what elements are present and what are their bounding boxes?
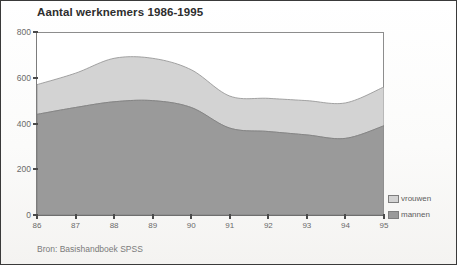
y-axis-label: 600 bbox=[1, 73, 31, 83]
x-axis-label: 86 bbox=[28, 221, 46, 230]
x-axis-tick bbox=[306, 214, 308, 219]
x-axis-tick bbox=[75, 214, 77, 219]
y-axis-label-text: 800 bbox=[3, 27, 31, 37]
x-axis-label: 93 bbox=[298, 221, 316, 230]
y-axis-label-text: 200 bbox=[3, 164, 31, 174]
y-axis-tick bbox=[33, 77, 38, 79]
x-axis-tick bbox=[344, 214, 346, 219]
y-axis-tick bbox=[33, 168, 38, 170]
plot-area bbox=[37, 32, 384, 215]
y-axis-label-text: 400 bbox=[3, 119, 31, 129]
chart-figure: Aantal werknemers 1986-1995 800600400200… bbox=[0, 0, 457, 265]
legend-swatch-icon bbox=[388, 211, 399, 219]
legend-item-label: mannen bbox=[401, 210, 430, 219]
page-title: Aantal werknemers 1986-1995 bbox=[37, 6, 203, 18]
y-axis-tick bbox=[33, 31, 38, 33]
y-axis-label: 400 bbox=[1, 119, 31, 129]
x-axis-label: 87 bbox=[67, 221, 85, 230]
y-axis-label-text: 0 bbox=[3, 210, 31, 220]
x-axis-label: 88 bbox=[105, 221, 123, 230]
legend-item: mannen bbox=[388, 208, 452, 221]
x-axis-label: 92 bbox=[259, 221, 277, 230]
x-axis-tick bbox=[152, 214, 154, 219]
legend-item-label: vrouwen bbox=[401, 194, 431, 203]
y-axis-label-text: 600 bbox=[3, 73, 31, 83]
legend-item: vrouwen bbox=[388, 192, 452, 205]
x-axis-tick bbox=[383, 214, 385, 219]
x-axis-label: 94 bbox=[336, 221, 354, 230]
chart-legend: vrouwenmannen bbox=[388, 192, 452, 224]
x-axis-tick bbox=[113, 214, 115, 219]
legend-swatch-icon bbox=[388, 195, 399, 203]
y-axis-label: 800 bbox=[1, 27, 31, 37]
y-axis-tick bbox=[33, 123, 38, 125]
x-axis-label: 89 bbox=[144, 221, 162, 230]
x-axis-label: 91 bbox=[221, 221, 239, 230]
x-axis-tick bbox=[190, 214, 192, 219]
x-axis-label: 90 bbox=[182, 221, 200, 230]
x-axis-tick bbox=[229, 214, 231, 219]
y-axis-label: 0 bbox=[1, 210, 31, 220]
y-axis-label: 200 bbox=[1, 164, 31, 174]
x-axis-tick bbox=[36, 214, 38, 219]
x-axis-line bbox=[36, 215, 385, 216]
stacked-area-plot bbox=[37, 32, 384, 215]
source-note: Bron: Basishandboek SPSS bbox=[37, 244, 143, 254]
x-axis-tick bbox=[267, 214, 269, 219]
